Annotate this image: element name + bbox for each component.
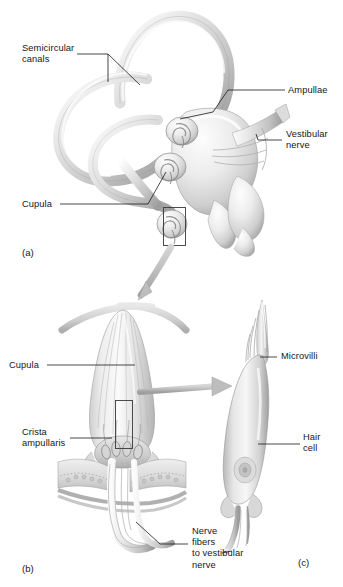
panel-b-illustration xyxy=(47,306,232,549)
label-cupula-panel-b: Cupula xyxy=(9,360,39,371)
panel-caption-b: (b) xyxy=(22,563,34,574)
panel-a-illustration xyxy=(59,16,290,300)
panel-c-illustration xyxy=(221,300,300,553)
label-hair-cell: Hair cell xyxy=(303,432,320,454)
microvilli xyxy=(246,300,268,364)
anterior-semicircular-canal xyxy=(120,16,230,124)
panel-caption-c: (c) xyxy=(298,557,309,568)
arrow-a-to-b xyxy=(138,247,171,300)
panel-caption-a: (a) xyxy=(22,247,34,258)
label-ampullae: Ampullae xyxy=(288,85,328,96)
label-vestibular-nerve: Vestibular nerve xyxy=(286,129,328,151)
label-microvilli: Microvilli xyxy=(281,351,318,362)
arrow-b-to-c xyxy=(140,377,232,396)
hair-cell-nucleus xyxy=(234,457,256,483)
label-semicircular-canals: Semicircular canals xyxy=(22,43,74,65)
label-cupula-panel-a: Cupula xyxy=(22,199,52,210)
label-crista-ampullaris: Crista ampullaris xyxy=(22,427,65,449)
ampulla-posterior xyxy=(157,210,187,244)
anatomical-figure: Semicircular canals Ampullae Vestibular … xyxy=(0,0,343,587)
label-nerve-fibers-to-vestibular-nerve: Nerve fibers to vestibular nerve xyxy=(192,526,243,571)
hair-cell-body xyxy=(223,355,269,504)
cupula-structure xyxy=(89,310,154,458)
